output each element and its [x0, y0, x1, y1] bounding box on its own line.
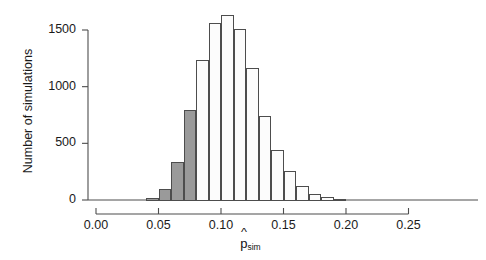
y-axis-label: Number of simulations: [21, 21, 35, 201]
histogram-bar: [197, 60, 209, 200]
histogram-figure: Number of simulations 050010001500 0.000…: [0, 0, 486, 260]
histogram-bar: [259, 117, 271, 200]
histogram-bar: [297, 187, 309, 200]
x-axis-label-subscript: sim: [247, 242, 260, 252]
x-tick-label: 0.25: [384, 218, 434, 232]
y-tick-label: 500: [30, 135, 76, 149]
histogram-bar: [172, 162, 184, 200]
histogram-bar: [334, 199, 346, 200]
x-tick-label: 0.15: [259, 218, 309, 232]
y-tick-label: 0: [30, 192, 76, 206]
histogram-bar: [284, 172, 296, 200]
histogram-bar: [234, 29, 246, 200]
histogram-bar: [322, 198, 334, 200]
y-tick-label: 1500: [30, 22, 76, 36]
histogram-bar: [247, 69, 259, 200]
histogram-bar: [222, 16, 234, 200]
x-tick-label: 0.00: [71, 218, 121, 232]
histogram-bar: [272, 151, 284, 200]
histogram-bar: [184, 110, 196, 200]
x-tick-label: 0.05: [134, 218, 184, 232]
y-tick-label: 1000: [30, 79, 76, 93]
x-tick-label: 0.20: [321, 218, 371, 232]
histogram-bar: [159, 190, 171, 200]
histogram-bar: [209, 23, 221, 200]
histogram-bar: [309, 194, 321, 200]
x-axis-label: psim: [240, 236, 260, 251]
histogram-bar: [147, 198, 159, 200]
x-tick-label: 0.10: [196, 218, 246, 232]
